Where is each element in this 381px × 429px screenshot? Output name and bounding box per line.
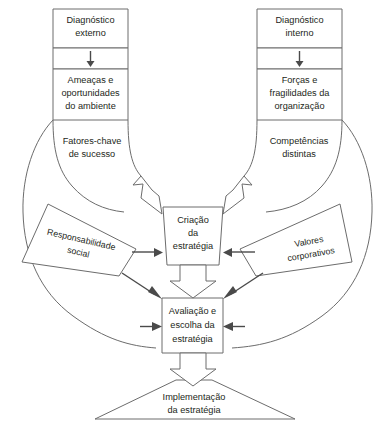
- svg-text:organização: organização: [274, 101, 324, 111]
- svg-text:da estratégia: da estratégia: [167, 405, 221, 415]
- svg-text:Implementação: Implementação: [163, 392, 226, 402]
- left-block-arrowhead: [133, 176, 162, 214]
- label-competencias: Competências distintas: [270, 136, 329, 159]
- svg-text:estratégia: estratégia: [172, 334, 213, 344]
- svg-text:estratégia: estratégia: [173, 241, 214, 251]
- responsabilidade-to-avaliacao-arrow: [122, 273, 162, 299]
- svg-text:externo: externo: [75, 28, 106, 38]
- svg-text:interno: interno: [285, 28, 313, 38]
- left-block-arrow-outer-edge: [128, 120, 141, 176]
- strategy-formulation-diagram: Diagnóstico externo Ameaças e oportunida…: [0, 0, 381, 429]
- svg-text:de sucesso: de sucesso: [69, 149, 115, 159]
- svg-text:Fatores-chave: Fatores-chave: [63, 136, 122, 146]
- criacao-to-avaliacao-arrow: [170, 265, 216, 298]
- right-block-arrow-outer-edge: [244, 120, 257, 176]
- right-block-arrowhead: [223, 176, 252, 214]
- svg-text:distintas: distintas: [282, 149, 316, 159]
- right-column-group: [223, 9, 372, 348]
- responsabilidade-to-criacao-arrow: [132, 248, 163, 257]
- svg-text:Diagnóstico: Diagnóstico: [66, 15, 114, 25]
- svg-text:Criação: Criação: [177, 215, 209, 225]
- svg-text:da: da: [188, 228, 199, 238]
- svg-text:oportunidades: oportunidades: [61, 88, 120, 98]
- svg-text:do ambiente: do ambiente: [65, 101, 116, 111]
- svg-text:escolha da: escolha da: [170, 320, 215, 330]
- label-ameacas: Ameaças e oportunidades do ambiente: [61, 75, 120, 111]
- svg-text:Forças e: Forças e: [282, 75, 318, 85]
- valores-to-avaliacao-arrow: [223, 273, 263, 299]
- label-fatores-chave: Fatores-chave de sucesso: [63, 136, 122, 159]
- svg-text:fragilidades da: fragilidades da: [270, 88, 331, 98]
- label-avaliacao-escolha: Avaliação e escolha da estratégia: [169, 306, 216, 344]
- left-block-arrow-inner-edge: [53, 120, 124, 212]
- svg-text:Ameaças e: Ameaças e: [68, 75, 114, 85]
- svg-text:Avaliação e: Avaliação e: [169, 306, 216, 316]
- svg-text:Competências: Competências: [270, 136, 329, 146]
- diagram-canvas: Diagnóstico externo Ameaças e oportunida…: [0, 0, 381, 429]
- right-block-arrow-inner-edge: [266, 120, 342, 212]
- left-column-group: [23, 9, 162, 348]
- svg-text:Diagnóstico: Diagnóstico: [275, 15, 323, 25]
